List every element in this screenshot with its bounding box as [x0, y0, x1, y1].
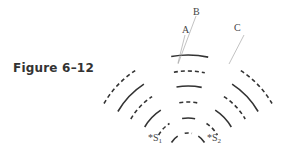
arc-left-6-dashed: [104, 71, 135, 104]
label-c: C: [234, 22, 241, 33]
arc-left-1-solid: [172, 136, 178, 142]
arc-center-3-dashed: [179, 102, 198, 103]
arc-left-4-dashed: [131, 97, 152, 119]
arc-left-2-dashed: [159, 124, 170, 136]
leader-line-c: [229, 35, 244, 64]
arc-right-4-dashed: [224, 97, 245, 119]
arc-center-6-solid: [171, 55, 208, 57]
arc-right-6-dashed: [241, 71, 272, 104]
arc-center-5-dashed: [174, 71, 205, 73]
label-b: B: [193, 6, 200, 17]
wave-arcs: [104, 55, 272, 142]
arc-center-4-solid: [177, 86, 202, 87]
arc-left-3-solid: [145, 110, 161, 127]
arc-right-3-solid: [215, 110, 231, 127]
leader-line-a: [178, 35, 185, 63]
interference-diagram: A B C *S1 *S2: [0, 0, 289, 158]
arc-right-1-solid: [198, 136, 204, 142]
arc-center-2-solid: [182, 118, 195, 119]
svg-text:*S1: *S1: [148, 132, 163, 145]
svg-text:*S2: *S2: [207, 132, 222, 145]
label-a: A: [182, 24, 190, 35]
source-s1: *S1: [148, 132, 163, 145]
source-s2: *S2: [207, 132, 222, 145]
